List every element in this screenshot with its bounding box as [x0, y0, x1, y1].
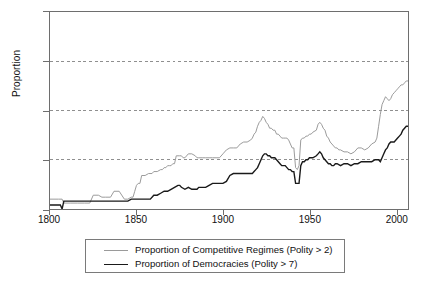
- legend-item: Proportion of Competitive Regimes (Polit…: [104, 243, 344, 257]
- x-tick-label: 2000: [367, 214, 422, 225]
- x-tick-mark: [310, 210, 311, 215]
- series-line-competitive-regimes: [50, 81, 408, 203]
- x-tick-mark: [397, 210, 398, 215]
- x-tick-mark: [223, 210, 224, 215]
- gridlines: [50, 61, 408, 160]
- series-line-democracies: [50, 126, 408, 209]
- legend-line-swatch: [104, 250, 128, 251]
- x-tick-mark: [49, 210, 50, 215]
- series-layer: [50, 81, 408, 209]
- plot-svg: [50, 12, 408, 209]
- legend-label: Proportion of Competitive Regimes (Polit…: [135, 244, 333, 256]
- x-tick-label: 1800: [19, 214, 79, 225]
- x-tick-label: 1850: [106, 214, 166, 225]
- chart-legend: Proportion of Competitive Regimes (Polit…: [85, 239, 345, 273]
- x-tick-label: 1900: [193, 214, 253, 225]
- plot-area: [49, 11, 409, 210]
- x-tick-label: 1950: [280, 214, 340, 225]
- y-axis-title: Proportion: [11, 31, 22, 117]
- legend-item: Proportion of Democracies (Polity > 7): [104, 257, 344, 271]
- chart-figure: Proportion 0.000.250.500.751.00 18001850…: [0, 0, 422, 281]
- x-tick-mark: [136, 210, 137, 215]
- legend-label: Proportion of Democracies (Polity > 7): [135, 258, 297, 270]
- legend-line-swatch: [104, 264, 128, 265]
